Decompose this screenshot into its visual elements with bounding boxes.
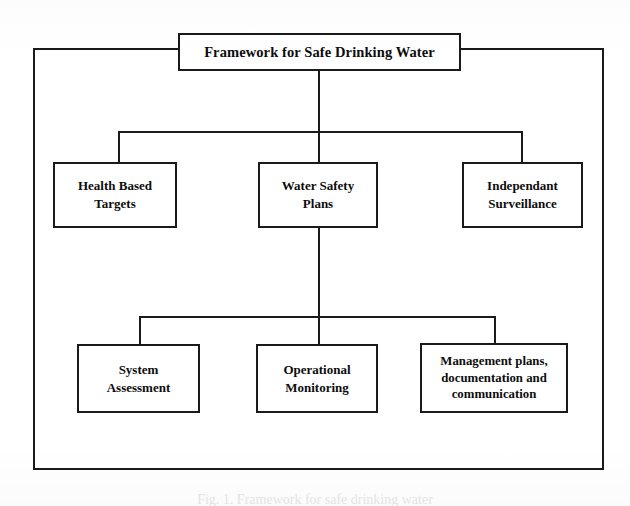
connector-bus-to-management-plans	[494, 316, 496, 345]
node-health-based-targets: Health BasedTargets	[53, 162, 177, 228]
node-label: Health BasedTargets	[55, 177, 175, 212]
figure-canvas: Framework for Safe Drinking Water Health…	[0, 0, 630, 506]
node-label: Framework for Safe Drinking Water	[180, 44, 459, 61]
node-label: SystemAssessment	[79, 361, 198, 396]
connector-bus-to-surveillance	[521, 131, 523, 164]
connector-bus-level2	[118, 131, 522, 133]
connector-bus-to-water-safety	[318, 131, 320, 164]
figure-caption: Fig. 1. Framework for safe drinking wate…	[0, 492, 630, 506]
connector-water-safety-to-bus	[318, 228, 320, 346]
connector-root-to-bus	[318, 71, 320, 133]
node-framework-for-safe-drinking-water: Framework for Safe Drinking Water	[178, 33, 461, 71]
node-system-assessment: SystemAssessment	[77, 344, 200, 413]
node-management-plans: Management plans,documentation andcommun…	[420, 343, 568, 413]
node-label: IndependantSurveillance	[464, 177, 581, 212]
node-water-safety-plans: Water SafetyPlans	[258, 162, 378, 228]
node-label: Water SafetyPlans	[260, 177, 376, 212]
node-independant-surveillance: IndependantSurveillance	[462, 162, 583, 228]
node-operational-monitoring: OperationalMonitoring	[256, 344, 378, 413]
connector-bus-to-health-targets	[118, 131, 120, 164]
connector-bus-to-system-assessment	[139, 316, 141, 346]
connector-bus-level3	[139, 316, 495, 318]
node-label: OperationalMonitoring	[258, 361, 376, 396]
node-label: Management plans,documentation andcommun…	[422, 353, 566, 404]
